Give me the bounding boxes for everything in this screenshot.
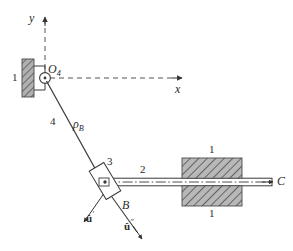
point-b-label: B: [122, 199, 129, 211]
unit-vector-double-prime-arrow: [133, 226, 142, 239]
rod-2-label: 2: [140, 164, 146, 175]
unit-vector-prime-label: û′: [86, 211, 94, 224]
diagram-canvas: [0, 0, 293, 251]
rod-2-group: [104, 178, 273, 186]
guide-block-top-label: 1: [209, 144, 215, 155]
origin-subscript: 4: [57, 69, 61, 78]
slider-pin-group: [99, 178, 109, 186]
y-axis-label: y: [29, 12, 34, 24]
kinematic-diagram: y x O4 1 4 ρB 3 2 1 1 C B û′ û″: [0, 0, 293, 251]
pivot-o4-center-dot: [44, 77, 47, 80]
u-double-prime-sup: ″: [130, 218, 133, 227]
link-4-group: [47, 81, 143, 239]
x-axis-label: x: [175, 83, 180, 95]
slider-pin-dot: [103, 180, 106, 183]
u-prime-sup: ′: [92, 210, 94, 219]
link-4-label: 4: [50, 116, 56, 127]
unit-vector-double-prime-label: û″: [124, 219, 133, 232]
ground-guide-block-lower: [182, 186, 242, 206]
origin-letter: O: [48, 62, 57, 76]
origin-label: O4: [48, 63, 61, 79]
rho-subscript: B: [79, 124, 84, 133]
ground-guide-block-upper: [182, 158, 242, 178]
rho-b-label: ρB: [73, 118, 84, 134]
guide-block-bottom-label: 1: [209, 208, 215, 219]
axis-group: [45, 17, 182, 78]
point-c-label: C: [277, 175, 285, 187]
slider-3-label: 3: [107, 156, 113, 167]
ground-left-label: 1: [12, 72, 18, 83]
ground-wall-hatched: [22, 59, 34, 97]
